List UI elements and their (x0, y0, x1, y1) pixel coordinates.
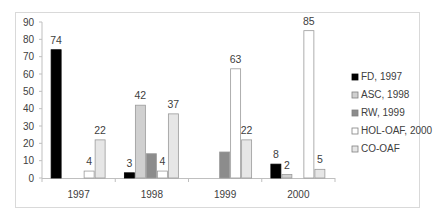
y-tick-label: 70 (23, 51, 35, 62)
bar (146, 154, 156, 178)
data-label: 2 (284, 159, 290, 171)
bar (242, 140, 252, 178)
bar (84, 171, 94, 178)
data-label: 5 (317, 153, 323, 165)
bar (124, 173, 134, 178)
bar (271, 164, 281, 178)
y-tick-label: 50 (23, 86, 35, 97)
legend-swatch (352, 92, 358, 98)
y-tick-label: 40 (23, 103, 35, 114)
y-tick-label: 60 (23, 69, 35, 80)
legend-label: HOL-OAF, 2000 (361, 125, 433, 136)
legend-label: CO-OAF (361, 143, 400, 154)
data-label: 42 (135, 89, 147, 101)
bar (220, 152, 230, 178)
legend-swatch (352, 110, 358, 116)
data-label: 3 (126, 157, 132, 169)
bar (135, 105, 145, 178)
legend-label: ASC, 1998 (361, 89, 410, 100)
bar (51, 50, 61, 178)
bar (168, 114, 178, 178)
bar (315, 169, 325, 178)
x-tick-label: 1998 (141, 189, 164, 200)
data-label: 22 (241, 124, 253, 136)
legend-swatch (352, 146, 358, 152)
data-label: 63 (230, 53, 242, 65)
legend-label: RW, 1999 (361, 107, 405, 118)
bar (304, 31, 314, 178)
y-tick-label: 20 (23, 138, 35, 149)
bar-chart: 0102030405060708090199774422199834243719… (0, 0, 433, 221)
legend-label: FD, 1997 (361, 71, 403, 82)
y-tick-label: 80 (23, 34, 35, 45)
bar (282, 175, 292, 178)
y-tick-label: 30 (23, 121, 35, 132)
legend-swatch (352, 74, 358, 80)
y-tick-label: 0 (28, 173, 34, 184)
x-tick-label: 2000 (287, 189, 310, 200)
bar (95, 140, 105, 178)
data-label: 22 (94, 124, 106, 136)
data-label: 4 (86, 155, 92, 167)
bar (157, 171, 167, 178)
data-label: 85 (303, 15, 315, 27)
x-tick-label: 1997 (68, 189, 91, 200)
y-tick-label: 10 (23, 155, 35, 166)
data-label: 74 (50, 34, 62, 46)
bar (231, 69, 241, 178)
x-tick-label: 1999 (214, 189, 237, 200)
y-tick-label: 90 (23, 17, 35, 28)
data-label: 4 (159, 155, 165, 167)
data-label: 8 (273, 148, 279, 160)
data-label: 37 (168, 98, 180, 110)
legend-swatch (352, 128, 358, 134)
